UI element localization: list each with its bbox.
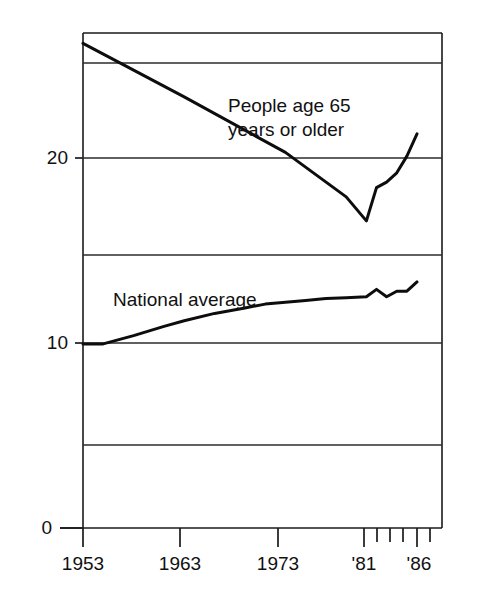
x-minor-tick-marks xyxy=(377,528,430,542)
x-axis-label-1981: '81 xyxy=(352,553,377,574)
x-axis-label-1963: 1963 xyxy=(159,553,201,574)
x-tick-marks xyxy=(83,528,417,547)
x-axis-label-1973: 1973 xyxy=(257,553,299,574)
line-chart: 20 10 0 1953 1963 1973 '81 '86 People ag… xyxy=(0,0,477,599)
annotation-people-age-65-line1: People age 65 xyxy=(228,95,351,116)
y-axis-label-0: 0 xyxy=(41,517,52,538)
chart-container: 20 10 0 1953 1963 1973 '81 '86 People ag… xyxy=(0,0,477,599)
annotation-people-age-65-line2: years or older xyxy=(228,119,345,140)
annotation-national-average: National average xyxy=(113,289,257,310)
x-axis-label-1986: '86 xyxy=(407,553,432,574)
x-axis-label-1953: 1953 xyxy=(62,553,104,574)
y-axis-label-10: 10 xyxy=(47,332,68,353)
y-axis-label-20: 20 xyxy=(47,147,68,168)
